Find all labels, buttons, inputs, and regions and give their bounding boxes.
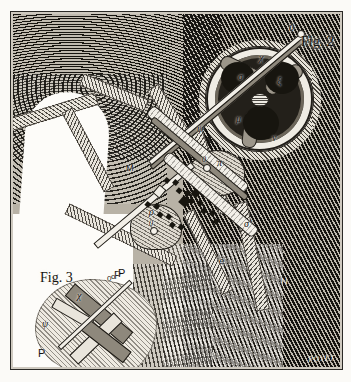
label-o-fig3-top: o (111, 273, 115, 281)
fig2-caption: Fig. 2 (301, 34, 334, 50)
label-psi: ψ (197, 124, 203, 134)
engraving-canvas: Fig. 2 0 χ σ ξ μ ν ψ π 0 ρ 0 σ′ e M N P … (13, 14, 340, 367)
label-joint-zero: 0 (202, 156, 206, 164)
label-pi: π (217, 158, 222, 168)
plate-frame: Fig. 2 0 χ σ ξ μ ν ψ π 0 ρ 0 σ′ e M N P … (10, 11, 343, 370)
wheel-axle-boss (251, 93, 269, 107)
label-chi-fig3: χ (77, 291, 81, 301)
label-P-fig3-bottom: P (38, 348, 45, 359)
fig3-ground-blob (35, 279, 157, 367)
joint-pi (203, 164, 211, 172)
label-M: M (126, 164, 134, 173)
label-sigma-prime: σ′ (244, 219, 251, 229)
label-chi-upper: χ (259, 53, 263, 63)
label-e: e (219, 257, 224, 266)
engraving-plate: Fig. 2 0 χ σ ξ μ ν ψ π 0 ρ 0 σ′ e M N P … (0, 0, 351, 382)
label-xi: ξ (277, 76, 281, 86)
fig3-caption: Fig. 3 (40, 270, 73, 286)
engraver-signature: POYET (308, 353, 335, 363)
label-psi-fig3: ψ (42, 319, 48, 329)
label-mu: μ (236, 114, 241, 124)
joint-rho (150, 227, 158, 235)
label-P-fig3-top: P (118, 268, 125, 279)
label-rho-joint-zero: 0 (149, 220, 153, 228)
label-sigma: σ (238, 72, 243, 82)
label-N: N (281, 277, 288, 286)
label-nu: ν (272, 133, 276, 143)
label-rho: ρ (149, 207, 154, 217)
label-rod-top-zero: 0 (289, 23, 294, 33)
